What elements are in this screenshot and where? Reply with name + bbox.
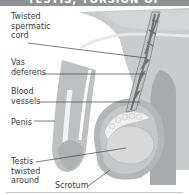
label-spermatic-cord: Twisted spermatic cord	[11, 12, 51, 41]
label-testis: Testis twisted around	[11, 157, 40, 186]
page-title: TESTIS, TORSION OF	[0, 0, 189, 5]
leader-scrotum	[88, 170, 110, 186]
label-penis: Penis	[11, 118, 32, 128]
label-vas-deferens: Vas deferens	[11, 58, 46, 77]
footer-divider	[6, 192, 183, 193]
anatomy-diagram: Twisted spermatic cord Vas deferens Bloo…	[0, 6, 189, 189]
label-blood-vessels: Blood vessels	[11, 87, 40, 106]
label-scrotum: Scrotum	[55, 181, 88, 191]
